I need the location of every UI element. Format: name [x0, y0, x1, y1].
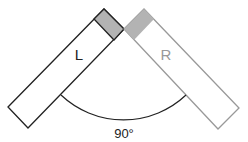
- angle-diagram: L R 90°: [0, 0, 248, 142]
- angle-arc: [61, 95, 186, 120]
- angle-label: 90°: [114, 126, 134, 141]
- left-label: L: [75, 46, 83, 63]
- right-label: R: [161, 46, 172, 63]
- left-bar: [8, 9, 124, 128]
- right-bar: [124, 9, 239, 129]
